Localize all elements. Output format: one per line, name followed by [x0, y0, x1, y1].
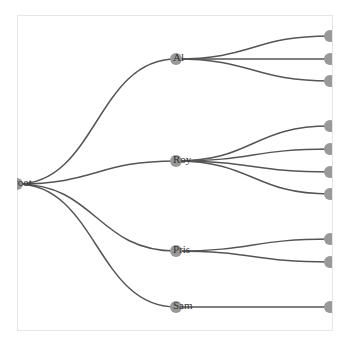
link-root-al: [17, 59, 176, 184]
node-sam[interactable]: Sam: [170, 299, 193, 313]
node-label: root: [14, 176, 32, 188]
node-circle[interactable]: [324, 256, 336, 268]
link-root-pris: [17, 184, 176, 251]
leaf-node-roy-3[interactable]: [324, 188, 336, 200]
leaf-node-al-0[interactable]: [324, 30, 336, 42]
node-circle[interactable]: [324, 301, 336, 313]
link-root-sam: [17, 184, 176, 307]
node-root[interactable]: root: [11, 176, 32, 190]
node-circle[interactable]: [324, 166, 336, 178]
node-circle[interactable]: [324, 75, 336, 87]
node-label: Al: [173, 51, 184, 63]
link-pris-leaf-1: [176, 251, 330, 262]
node-circle[interactable]: [324, 143, 336, 155]
node-al[interactable]: Al: [170, 51, 184, 65]
node-label: Pris: [173, 243, 190, 255]
tree-links: [17, 36, 330, 307]
node-label: Sam: [173, 299, 193, 311]
leaf-node-al-2[interactable]: [324, 75, 336, 87]
node-circle[interactable]: [324, 120, 336, 132]
node-pris[interactable]: Pris: [170, 243, 190, 257]
leaf-node-roy-1[interactable]: [324, 143, 336, 155]
node-circle[interactable]: [324, 30, 336, 42]
node-roy[interactable]: Roy: [170, 153, 192, 167]
tree-diagram: AlRoyPrisSamroot: [0, 0, 343, 350]
node-circle[interactable]: [324, 53, 336, 65]
node-circle[interactable]: [324, 233, 336, 245]
link-pris-leaf-0: [176, 239, 330, 251]
link-al-leaf-2: [176, 59, 330, 81]
leaf-node-sam-0[interactable]: [324, 301, 336, 313]
leaf-node-al-1[interactable]: [324, 53, 336, 65]
link-al-leaf-0: [176, 36, 330, 59]
node-circle[interactable]: [324, 188, 336, 200]
node-label: Roy: [173, 153, 192, 165]
leaf-node-pris-1[interactable]: [324, 256, 336, 268]
link-root-roy: [17, 161, 176, 184]
leaf-node-roy-2[interactable]: [324, 166, 336, 178]
tree-nodes: AlRoyPrisSamroot: [11, 30, 336, 313]
leaf-node-pris-0[interactable]: [324, 233, 336, 245]
leaf-node-roy-0[interactable]: [324, 120, 336, 132]
